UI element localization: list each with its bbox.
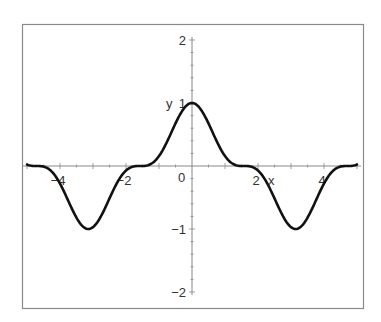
x-tick-label: 2: [252, 173, 259, 188]
y-tick-label: −1: [171, 222, 186, 237]
chart: −4−22421−1−2 x y 0: [0, 0, 381, 322]
axes: [23, 37, 361, 295]
y-tick-label: −2: [171, 285, 186, 300]
y-axis-label: y: [166, 96, 173, 111]
y-tick-label: 2: [179, 33, 186, 48]
origin-label: 0: [178, 170, 185, 185]
x-axis-label: x: [268, 173, 275, 188]
